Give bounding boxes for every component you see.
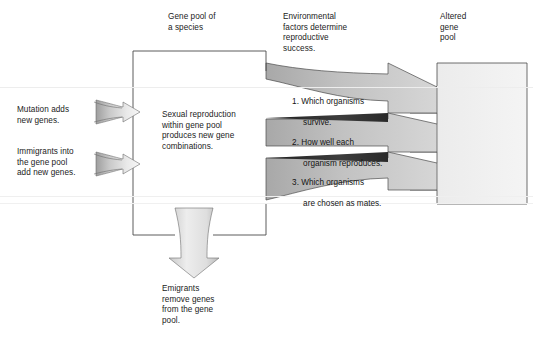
environmental-factors-heading: Environmental factors determine reproduc… xyxy=(283,12,347,54)
factor-item-3: 3. Which organisms are chosen as mates. xyxy=(283,167,381,220)
gene-pool-diagram: Gene pool of a species Environmental fac… xyxy=(0,0,533,337)
center-box-label: Sexual reproduction within gene pool pro… xyxy=(162,110,236,152)
altered-gene-pool-heading: Altered gene pool xyxy=(440,12,466,44)
gene-pool-heading: Gene pool of a species xyxy=(168,12,216,33)
diagram-canvas xyxy=(0,0,533,337)
factor-2-number: 2. xyxy=(292,138,299,147)
factor-3-line2: are chosen as mates. xyxy=(292,199,381,210)
factor-3-line1: Which organisms xyxy=(301,178,364,187)
factor-1-line1: Which organisms xyxy=(301,97,364,106)
factor-1-number: 1. xyxy=(292,97,299,106)
emigrants-output-label: Emigrants remove genes from the gene poo… xyxy=(162,284,214,326)
emigrants-output-arrow xyxy=(169,208,219,278)
factor-2-line1: How well each xyxy=(301,138,354,147)
immigrants-input-label: Immigrants into the gene pool add new ge… xyxy=(17,147,76,179)
mutation-input-label: Mutation adds new genes. xyxy=(17,105,69,126)
factor-3-number: 3. xyxy=(292,178,299,187)
